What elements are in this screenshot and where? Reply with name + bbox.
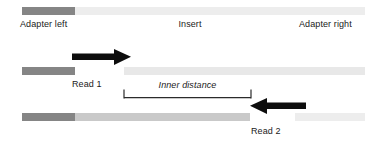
inner-distance-bracket [123,88,253,100]
insert-segment [75,7,365,15]
read2-label: Read 2 [251,126,281,137]
read1-label: Read 1 [72,79,102,90]
read2-tail-segment [295,113,365,121]
fragment-diagram: Adapter left Insert Adapter right Read 1… [0,0,378,147]
adapter-right-label: Adapter right [299,19,352,30]
read1-adapter-segment [22,67,75,75]
read1-arrow-icon [70,48,134,66]
read2-insert-segment [75,113,250,121]
adapter-left-segment [22,7,75,15]
adapter-left-label: Adapter left [20,19,67,30]
read2-adapter-segment [22,113,75,121]
insert-label: Insert [166,19,214,30]
read1-insert-segment [124,67,365,75]
